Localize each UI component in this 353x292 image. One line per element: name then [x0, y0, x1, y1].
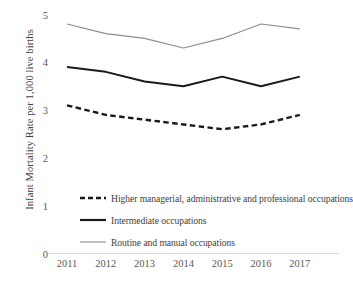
legend-label-1: Intermediate occupations [111, 215, 207, 226]
x-tick-label-2011: 2011 [57, 258, 78, 269]
x-tick-label-2012: 2012 [95, 258, 116, 269]
legend-label-0: Higher managerial, administrative and pr… [111, 193, 353, 204]
x-tick-label-2016: 2016 [251, 258, 272, 269]
x-tick-label-2015: 2015 [212, 258, 233, 269]
x-axis-tick-labels: 2011201220132014201520162017 [48, 258, 343, 278]
series-line-1 [67, 67, 300, 86]
legend-line-swatch-icon-1 [80, 215, 106, 225]
y-tick-label-4: 4 [26, 57, 48, 68]
y-axis-tick-labels: 012345 [26, 0, 48, 292]
series-line-2 [67, 24, 300, 48]
chart-legend: Higher managerial, administrative and pr… [80, 189, 343, 255]
legend-line-swatch-icon-0 [80, 193, 106, 203]
y-tick-label-2: 2 [26, 152, 48, 163]
y-tick-label-3: 3 [26, 105, 48, 116]
legend-item-1[interactable]: Intermediate occupations [80, 211, 343, 229]
legend-item-2[interactable]: Routine and manual occupations [80, 233, 343, 251]
legend-label-2: Routine and manual occupations [111, 237, 235, 248]
x-tick-label-2017: 2017 [289, 258, 310, 269]
x-tick-label-2014: 2014 [173, 258, 194, 269]
y-tick-label-5: 5 [26, 9, 48, 20]
x-tick-label-2013: 2013 [134, 258, 155, 269]
series-line-0 [67, 105, 300, 129]
legend-line-swatch-icon-2 [80, 237, 106, 247]
y-tick-label-1: 1 [26, 200, 48, 211]
legend-item-0[interactable]: Higher managerial, administrative and pr… [80, 189, 343, 207]
y-tick-label-0: 0 [26, 248, 48, 259]
